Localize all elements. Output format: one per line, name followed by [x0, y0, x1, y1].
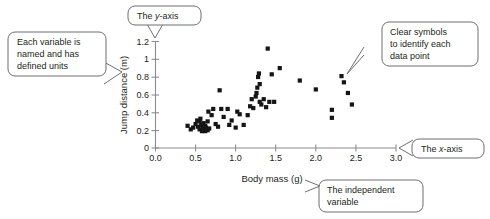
data-point [234, 125, 238, 129]
data-point [266, 47, 270, 51]
callout-independent-line-2: variable [327, 197, 359, 207]
callout-y-axis-suffix: -axis [160, 11, 180, 21]
data-point [350, 102, 354, 106]
data-point [330, 108, 334, 112]
figure-container: 1.2 1 0.8 0.6 0.4 0.2 0 0.0 0.5 1.0 1.5 … [0, 0, 490, 219]
data-point [250, 97, 254, 101]
y-tick-label-0.8: 0.8 [136, 72, 149, 82]
data-point [238, 112, 242, 116]
callout-symbols-line-1: Clear symbols [390, 27, 448, 37]
data-point [227, 123, 231, 127]
data-point [198, 117, 202, 121]
y-tick-label-0: 0 [144, 143, 149, 153]
callout-variables-line-2: named and has [17, 49, 80, 59]
callout-y-axis: The y-axis [128, 6, 201, 38]
x-tick-label-2.5: 2.5 [350, 153, 363, 163]
callout-independent-variable: The independent variable [305, 180, 423, 212]
data-point [258, 82, 262, 86]
data-point [339, 74, 343, 78]
data-point [342, 80, 346, 84]
x-tick-label-2.0: 2.0 [310, 153, 323, 163]
callout-symbols-line-3: data point [390, 51, 430, 61]
data-point [272, 100, 276, 104]
x-tick-label-3.0: 3.0 [390, 153, 403, 163]
data-point [219, 107, 223, 111]
callout-variables-line-3: defined units [17, 61, 69, 71]
callout-y-axis-text: The y-axis [137, 11, 179, 21]
x-tick-label-1.0: 1.0 [229, 153, 242, 163]
callout-independent-line-1: The independent [327, 185, 395, 195]
y-tick-label-0.6: 0.6 [136, 90, 149, 100]
data-point [210, 113, 214, 117]
data-point [216, 125, 220, 129]
data-point [314, 87, 318, 91]
callout-x-axis: The x-axis [399, 139, 484, 158]
x-axis-tick-labels: 0.0 0.5 1.0 1.5 2.0 2.5 3.0 [149, 153, 402, 163]
data-point [270, 72, 274, 76]
x-tick-label-0.5: 0.5 [189, 153, 202, 163]
callout-symbols-line-2: to identify each [390, 39, 451, 49]
x-axis-title: Body mass (g) [241, 173, 302, 184]
data-point [254, 91, 258, 95]
data-point [278, 66, 282, 70]
data-point [242, 123, 246, 127]
callout-symbols-leader [347, 47, 364, 74]
data-point [298, 78, 302, 82]
data-point [226, 107, 230, 111]
data-point [246, 113, 250, 117]
data-point [257, 71, 261, 75]
data-point [218, 88, 222, 92]
data-point [330, 116, 334, 120]
data-point [230, 118, 234, 122]
x-tick-label-1.5: 1.5 [269, 153, 282, 163]
data-point [264, 105, 268, 109]
callout-symbols: Clear symbols to identify each data poin… [347, 22, 478, 74]
y-axis-tick-labels: 1.2 1 0.8 0.6 0.4 0.2 0 [136, 37, 149, 154]
callout-x-axis-suffix: -axis [444, 144, 464, 154]
y-tick-label-0.2: 0.2 [136, 126, 149, 136]
data-point [222, 115, 226, 119]
callout-x-axis-prefix: The [421, 144, 439, 154]
y-axis-title: Jump distance (m) [118, 56, 129, 134]
callout-x-axis-text: The x-axis [421, 144, 463, 154]
data-point [262, 97, 266, 101]
plot-axes [156, 41, 397, 148]
data-point [211, 107, 215, 111]
callout-variables: Each variable is named and has defined u… [8, 32, 122, 84]
y-tick-label-1: 1 [144, 54, 149, 64]
y-tick-label-1.2: 1.2 [136, 37, 149, 47]
callout-y-axis-prefix: The [137, 11, 155, 21]
data-point [206, 119, 210, 123]
x-tick-label-0.0: 0.0 [149, 153, 162, 163]
data-point [346, 91, 350, 95]
data-point [267, 100, 271, 104]
scatter-plot-figure: 1.2 1 0.8 0.6 0.4 0.2 0 0.0 0.5 1.0 1.5 … [0, 0, 490, 219]
callout-independent-leader [305, 180, 320, 192]
data-point-layer [185, 47, 354, 134]
data-point [259, 102, 263, 106]
callout-y-axis-leader [147, 24, 163, 38]
data-point [251, 106, 255, 110]
y-tick-label-0.4: 0.4 [136, 108, 149, 118]
callout-variables-line-1: Each variable is [17, 37, 81, 47]
data-point [207, 126, 211, 130]
